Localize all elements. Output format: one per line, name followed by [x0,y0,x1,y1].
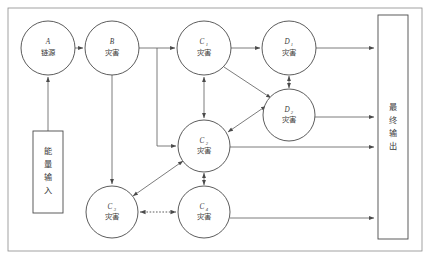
box-energy-input-char-1: 能 [44,146,52,156]
node-b-id: B [110,38,115,46]
node-c2[interactable]: C 2 灾害 [178,120,230,172]
node-d1[interactable]: D 1 灾害 [262,21,316,75]
box-final-output-char-1: 最 [389,102,397,112]
node-c3-label: 灾害 [105,212,119,221]
node-c1-label: 灾害 [197,48,211,57]
node-c4-label: 灾害 [197,212,211,221]
node-c3-id: C [108,203,113,211]
box-final-output-char-3: 输 [389,128,397,138]
node-layer: A 链源 B 灾害 C 1 灾害 D 1 灾害 [21,21,316,238]
box-energy-input-char-4: 入 [44,185,52,195]
node-c2-label: 灾害 [197,146,211,155]
node-b-label: 灾害 [105,48,119,57]
node-d1-subscript: 1 [291,42,293,47]
node-c1-subscript: 1 [206,42,208,47]
box-final-output-char-4: 出 [389,141,397,151]
node-a-label: 链源 [41,48,56,57]
node-d2-id: D [283,106,290,114]
box-energy-input-char-2: 量 [44,159,52,169]
edge-c2-c3-bidirectional [133,161,183,196]
node-c4[interactable]: C 4 灾害 [178,186,230,238]
box-final-output-char-2: 终 [389,115,397,125]
diagram-svg: A 链源 B 灾害 C 1 灾害 D 1 灾害 [0,0,430,259]
node-d1-id: D [283,38,290,46]
edge-c1-to-d2 [224,67,271,98]
node-d2[interactable]: D 2 灾害 [263,89,315,141]
node-c1[interactable]: C 1 灾害 [177,21,231,75]
node-d2-label: 灾害 [282,115,296,124]
edge-b-to-c2 [157,48,176,146]
node-c4-id: C [200,203,205,211]
box-energy-input[interactable]: 能 量 输 入 [33,131,63,213]
box-final-output-rect[interactable] [378,15,408,239]
edge-c2-d2-bidirectional [228,106,266,132]
node-a[interactable]: A 链源 [21,21,75,75]
node-b[interactable]: B 灾害 [85,21,139,75]
node-c3[interactable]: C 3 灾害 [86,186,138,238]
node-d1-label: 灾害 [282,48,296,57]
node-c1-id: C [200,38,205,46]
box-final-output[interactable]: 最 终 输 出 [378,15,408,239]
diagram-canvas: A 链源 B 灾害 C 1 灾害 D 1 灾害 [0,0,430,259]
node-a-id: A [45,38,51,46]
node-c2-id: C [200,137,205,145]
box-energy-input-char-3: 输 [44,172,52,182]
